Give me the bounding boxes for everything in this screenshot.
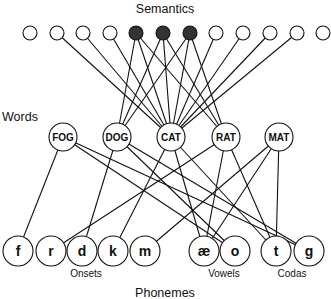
word-label: FOG xyxy=(52,132,74,143)
word-phoneme-link xyxy=(113,137,171,251)
onsets-label: Onsets xyxy=(70,268,102,279)
word-label: MAT xyxy=(269,132,290,143)
phoneme-label: g xyxy=(305,243,314,259)
phonemes-title: Phonemes xyxy=(135,286,195,299)
phoneme-label: f xyxy=(16,243,21,259)
semantic-unit-active xyxy=(129,26,143,40)
codas-label: Codas xyxy=(278,268,307,279)
semantic-word-link xyxy=(171,33,190,137)
word-node-mat: MAT xyxy=(265,123,293,151)
word-phoneme-link xyxy=(226,137,276,251)
semantic-word-link xyxy=(117,33,163,137)
word-phoneme-link xyxy=(63,137,235,251)
phoneme-label: t xyxy=(274,243,279,259)
semantic-unit-active xyxy=(183,26,197,40)
semantic-unit xyxy=(23,26,37,40)
word-label: DOG xyxy=(106,132,129,143)
semantic-word-link xyxy=(117,33,136,137)
phoneme-label: m xyxy=(139,243,151,259)
phoneme-node-r: r xyxy=(36,236,66,266)
word-layer: FOGDOGCATRATMAT xyxy=(49,123,293,151)
vowels-label: Vowels xyxy=(208,268,240,279)
word-node-cat: CAT xyxy=(157,123,185,151)
word-phoneme-link xyxy=(276,137,279,251)
phoneme-label: æ xyxy=(198,243,210,259)
semantic-unit xyxy=(290,26,304,40)
phoneme-node-ae: æ xyxy=(189,236,219,266)
semantic-word-link xyxy=(163,33,171,137)
semantic-word-link xyxy=(171,33,243,137)
word-node-fog: FOG xyxy=(49,123,77,151)
phoneme-node-f: f xyxy=(3,236,33,266)
word-phoneme-link xyxy=(117,137,309,251)
word-label: CAT xyxy=(161,132,181,143)
phoneme-node-g: g xyxy=(294,236,324,266)
word-phoneme-link xyxy=(51,137,226,251)
word-node-dog: DOG xyxy=(103,123,131,151)
semantic-unit xyxy=(209,26,223,40)
phoneme-layer: frdkmæotg xyxy=(3,236,324,266)
phoneme-node-t: t xyxy=(261,236,291,266)
semantic-layer xyxy=(23,26,330,40)
phoneme-label: k xyxy=(109,243,117,259)
phoneme-node-m: m xyxy=(130,236,160,266)
phoneme-label: d xyxy=(78,243,87,259)
phoneme-node-d: d xyxy=(67,236,97,266)
phoneme-label: o xyxy=(231,243,240,259)
word-label: RAT xyxy=(216,132,236,143)
semantic-unit-active xyxy=(156,26,170,40)
word-phoneme-link xyxy=(18,137,63,251)
semantic-word-link xyxy=(171,33,216,137)
network-diagram: FOGDOGCATRATMAT frdkmæotg Semantics Word… xyxy=(0,0,331,299)
words-title: Words xyxy=(2,110,38,124)
semantic-unit xyxy=(316,26,330,40)
semantic-word-link xyxy=(163,33,226,137)
semantic-unit xyxy=(263,26,277,40)
word-node-rat: RAT xyxy=(212,123,240,151)
semantic-word-link xyxy=(171,33,297,137)
phoneme-node-o: o xyxy=(220,236,250,266)
semantic-unit xyxy=(236,26,250,40)
semantic-unit xyxy=(50,26,64,40)
phoneme-label: r xyxy=(48,243,54,259)
word-phoneme-link xyxy=(145,137,279,251)
semantics-title: Semantics xyxy=(136,2,194,16)
phoneme-node-k: k xyxy=(98,236,128,266)
semantic-unit xyxy=(103,26,117,40)
semantic-unit xyxy=(76,26,90,40)
